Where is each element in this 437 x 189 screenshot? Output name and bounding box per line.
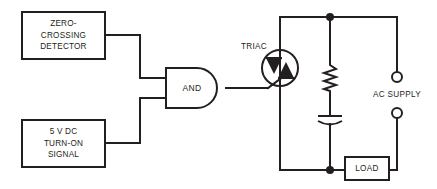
ac-supply-terminal-bottom (392, 108, 402, 118)
signal-label-line-1: 5 V DC (50, 127, 78, 136)
zcd-label-line-3: DETECTOR (40, 42, 86, 51)
signal-label-line-2: TURN-ON (44, 139, 83, 148)
wire-zcd-to-and (105, 35, 166, 78)
resistor-zigzag (324, 63, 336, 93)
zcd-label-line-2: CROSSING (41, 31, 86, 40)
wire-right-rail-lower (392, 118, 397, 170)
circuit-diagram-canvas: ZERO- CROSSING DETECTOR 5 V DC TURN-ON S… (0, 0, 437, 189)
junction-dot-top (326, 13, 334, 21)
ac-supply-terminal-top (392, 72, 402, 82)
zcd-label-line-1: ZERO- (50, 19, 77, 28)
and-gate-label: AND (183, 83, 202, 93)
capacitor-plate-bottom (318, 121, 342, 125)
wire-signal-to-and (105, 98, 166, 143)
signal-label-line-3: SIGNAL (48, 150, 79, 159)
triac-label: TRIAC (241, 42, 267, 51)
load-label: LOAD (355, 164, 379, 173)
schematic-svg: ZERO- CROSSING DETECTOR 5 V DC TURN-ON S… (0, 0, 437, 189)
ac-supply-label: AC SUPPLY (373, 90, 421, 99)
junction-dot-bottom (326, 166, 334, 174)
